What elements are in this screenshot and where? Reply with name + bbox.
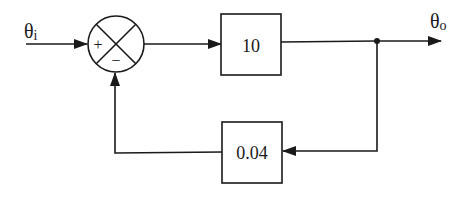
minus-sign: − [111,52,120,69]
output-line [281,41,377,42]
feedback-path-in [283,41,377,151]
summing-junction: + − [88,16,144,72]
plus-sign: + [93,36,102,53]
input-label: θi [24,20,38,43]
feedback-gain: 0.04 [236,143,268,163]
feedback-block: 0.04 [222,122,282,183]
output-label: θo [430,10,447,33]
forward-gain: 10 [242,36,260,56]
forward-block: 10 [221,14,281,75]
block-diagram: θi + − 10 θo 0.04 [0,0,471,199]
feedback-path-return [115,73,222,153]
